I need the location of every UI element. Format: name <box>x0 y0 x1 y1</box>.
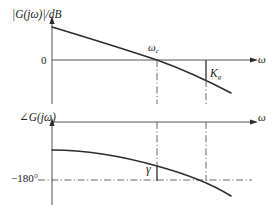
gain-margin-subscript: g <box>218 73 222 81</box>
phase-omega-axis-label: ω <box>258 112 266 123</box>
gain-margin-label: Kg <box>210 68 221 80</box>
phase-curve <box>52 150 231 196</box>
magnitude-omega-axis-label: ω <box>258 54 266 65</box>
magnitude-axis-label: |G(jω)|/dB <box>12 9 62 21</box>
gain-margin-symbol: K <box>210 67 218 79</box>
magnitude-plot <box>49 16 258 104</box>
bode-diagram-canvas <box>0 0 276 212</box>
crossover-frequency-symbol: ω <box>148 41 156 53</box>
phase-margin-label: γ <box>146 163 151 175</box>
bode-diagram-figure: |G(jω)|/dB ∠G(jω) 0 −180° ωc Kg γ ω ω <box>0 0 276 212</box>
phase-axis-label: ∠G(jω) <box>19 112 56 124</box>
minus-180-tick-label: −180° <box>11 173 38 184</box>
zero-db-tick-label: 0 <box>41 55 47 66</box>
crossover-frequency-subscript: c <box>156 47 159 54</box>
phase-horizontal-axis-arrow <box>250 119 258 124</box>
magnitude-horizontal-axis-arrow <box>250 57 258 62</box>
crossover-frequency-label: ωc <box>148 42 159 53</box>
